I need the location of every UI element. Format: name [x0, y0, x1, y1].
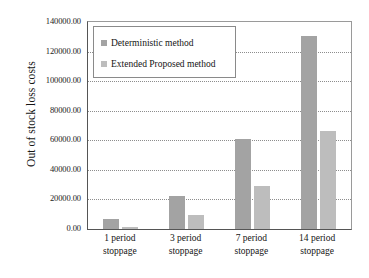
y-axis-tick-label: 60000.00	[50, 134, 81, 144]
x-axis-tick-label-line: 3 period	[169, 232, 203, 245]
bar	[320, 131, 336, 229]
x-axis-tick-label: 3 periodstoppage	[169, 232, 203, 257]
x-axis-tick-label-line: stoppage	[169, 245, 203, 258]
bar	[254, 186, 270, 229]
bar	[301, 36, 317, 229]
legend-swatch-icon	[101, 61, 107, 67]
x-axis-tick-label: 14 periodstoppage	[299, 232, 335, 257]
x-axis-tick-label-line: stoppage	[103, 245, 137, 258]
y-axis-tick-labels: 0.0020000.0040000.0060000.0080000.001000…	[0, 0, 84, 278]
x-axis-tick-label-line: 1 period	[103, 232, 137, 245]
y-axis-tick-label: 80000.00	[50, 105, 81, 115]
legend-swatch-icon	[101, 40, 107, 46]
x-axis-tick-label-line: stoppage	[234, 245, 268, 258]
legend-item: Extended Proposed method	[101, 53, 235, 74]
y-axis-tick-label: 120000.00	[46, 46, 81, 56]
legend-label: Deterministic method	[111, 38, 194, 48]
bar-chart-figure: Out of stock loss costs 0.0020000.004000…	[0, 0, 369, 278]
y-axis-tick-label: 20000.00	[50, 193, 81, 203]
chart-legend: Deterministic methodExtended Proposed me…	[93, 26, 236, 78]
x-axis-tick-label: 1 periodstoppage	[103, 232, 137, 257]
legend-label: Extended Proposed method	[111, 59, 215, 69]
bar	[235, 139, 251, 229]
bar	[122, 227, 138, 229]
x-axis-tick-label-line: 14 period	[299, 232, 335, 245]
y-axis-tick-label: 100000.00	[46, 75, 81, 85]
legend-item: Deterministic method	[101, 32, 235, 53]
bar	[188, 215, 204, 229]
y-axis-tick-label: 0.00	[67, 223, 81, 233]
bar	[103, 219, 119, 229]
x-axis-tick-label-line: stoppage	[299, 245, 335, 258]
x-axis-tick-label: 7 periodstoppage	[234, 232, 268, 257]
bar	[169, 196, 185, 229]
x-axis-tick-labels: 1 periodstoppage3 periodstoppage7 period…	[87, 232, 350, 272]
x-axis-tick-label-line: 7 period	[234, 232, 268, 245]
y-axis-tick-label: 40000.00	[50, 164, 81, 174]
y-axis-tick-label: 140000.00	[46, 16, 81, 26]
